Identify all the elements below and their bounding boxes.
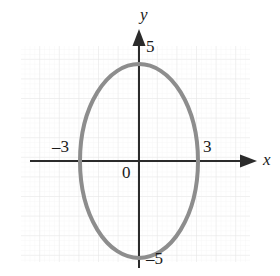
y-axis-label: y: [140, 6, 148, 23]
ellipse-graph-figure: y x 5 –5 3 –3 0: [0, 0, 280, 276]
tick-label-y-negative: –5: [146, 250, 163, 267]
origin-label: 0: [122, 164, 131, 181]
tick-label-x-positive: 3: [203, 138, 212, 155]
tick-label-x-negative: –3: [52, 138, 69, 155]
coordinate-plane: [0, 0, 280, 276]
x-axis-label: x: [263, 151, 271, 168]
tick-label-y-positive: 5: [146, 38, 155, 55]
y-axis-arrowhead: [133, 29, 146, 46]
